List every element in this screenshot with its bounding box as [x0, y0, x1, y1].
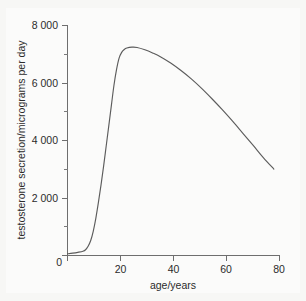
y-tick-label-2000: 2 000 [32, 192, 58, 204]
x-tick-label-20: 20 [115, 263, 127, 275]
x-tick-label-80: 80 [273, 263, 285, 275]
testosterone-secretion-curve [68, 47, 274, 254]
y-tick-label-0: 0 [56, 256, 62, 268]
x-tick-label-60: 60 [220, 263, 232, 275]
y-tick-label-8000: 8 000 [32, 19, 58, 31]
y-tick-label-6000: 6 000 [32, 77, 58, 89]
chart-figure: 8 000 6 000 4 000 2 000 0 20 40 60 80 ag… [0, 0, 306, 301]
y-axis-title: testosterone secretion/micrograms per da… [15, 40, 27, 240]
y-axis-major-ticks [62, 26, 68, 256]
y-tick-label-4000: 4 000 [32, 134, 58, 146]
x-axis-major-ticks [68, 256, 280, 262]
line-chart-svg: 8 000 6 000 4 000 2 000 0 20 40 60 80 ag… [0, 0, 306, 301]
plot-area: 8 000 6 000 4 000 2 000 0 20 40 60 80 ag… [0, 0, 306, 301]
x-axis-title: age/years [150, 279, 196, 291]
x-tick-label-40: 40 [168, 263, 180, 275]
